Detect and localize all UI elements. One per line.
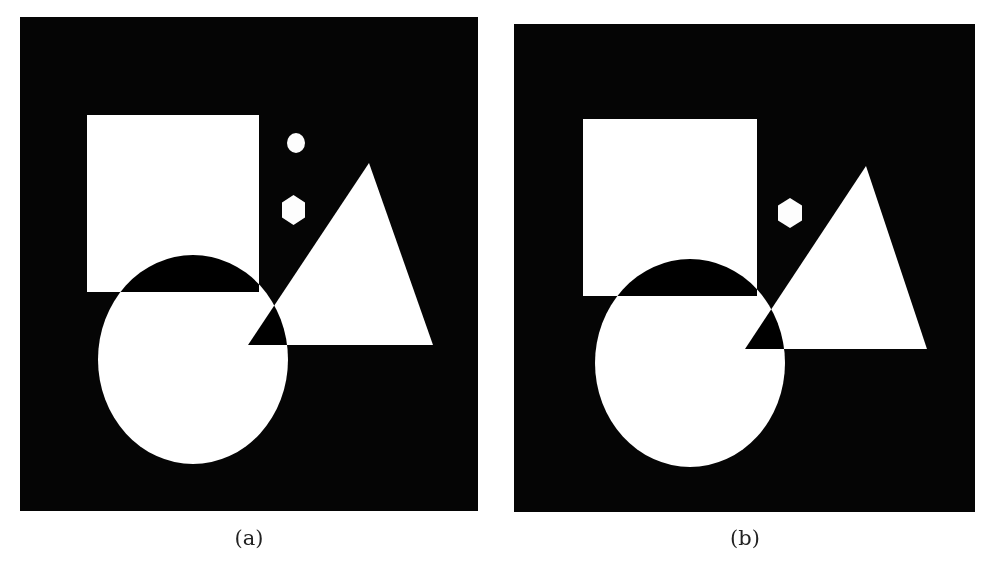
panel-a-oval-dot — [287, 133, 305, 153]
caption-a: (a) — [219, 524, 279, 552]
panel-a — [20, 17, 478, 511]
caption-b: (b) — [715, 524, 775, 552]
panel-a-ellipse — [98, 255, 288, 464]
panel-b — [514, 24, 975, 512]
figure — [0, 0, 984, 579]
panel-b-ellipse — [595, 259, 785, 467]
